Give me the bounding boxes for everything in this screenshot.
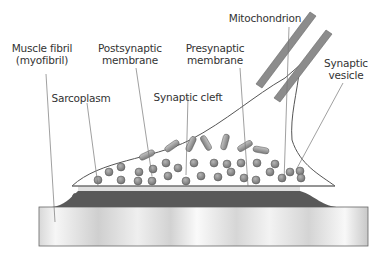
label-postsynaptic-line1: Postsynaptic [98,42,162,54]
label-synaptic-cleft: Synaptic cleft [148,91,228,103]
label-synaptic-vesicle-line2: vesicle [322,69,370,81]
label-muscle-fibril-line2: (myofibril) [6,54,78,66]
label-mitochondrion: Mitochondrion [225,12,305,24]
label-postsynaptic-line2: membrane [98,54,162,66]
label-presynaptic-line2: membrane [183,54,247,66]
synaptic-cleft [78,186,300,191]
label-presynaptic-line1: Presynaptic [183,42,247,54]
label-muscle-fibril: Muscle fibril (myofibril) [6,42,78,66]
label-muscle-fibril-line1: Muscle fibril [6,42,78,54]
muscle-fibril [39,207,368,246]
label-synaptic-vesicle-line1: Synaptic [322,57,370,69]
label-presynaptic-membrane: Presynaptic membrane [183,42,247,66]
label-sarcoplasm: Sarcoplasm [50,92,112,104]
presynaptic-terminal [72,65,335,186]
neuromuscular-junction-diagram [0,0,383,260]
label-synaptic-vesicle: Synaptic vesicle [322,57,370,81]
label-postsynaptic-membrane: Postsynaptic membrane [98,42,162,66]
